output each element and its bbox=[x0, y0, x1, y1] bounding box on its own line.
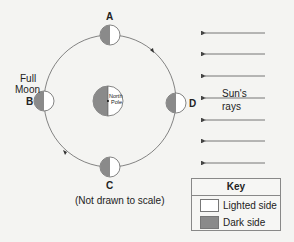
sun-rays-label-line1: Sun's bbox=[222, 88, 247, 99]
sun-rays-label-line2: rays bbox=[222, 101, 241, 112]
label-a: A bbox=[106, 11, 113, 22]
scale-note: (Not drawn to scale) bbox=[75, 195, 164, 206]
moon-d bbox=[166, 93, 186, 113]
full-moon-label-line1: Full bbox=[20, 73, 36, 84]
key-item-dark: Dark side bbox=[200, 214, 280, 230]
moon-a bbox=[100, 25, 120, 45]
moon-c bbox=[100, 157, 120, 177]
label-b: B bbox=[26, 96, 33, 107]
dark-swatch bbox=[200, 216, 219, 229]
key-item-lighted: Lighted side bbox=[200, 197, 280, 213]
label-c: C bbox=[106, 180, 113, 191]
full-moon-label-line2: Moon bbox=[15, 84, 40, 95]
lighted-swatch bbox=[200, 199, 219, 212]
earth-label-line2: Pole bbox=[111, 99, 122, 105]
key-item-label: Dark side bbox=[223, 217, 265, 228]
key-title: Key bbox=[192, 179, 280, 196]
key-item-label: Lighted side bbox=[223, 200, 277, 211]
key-legend: Key Lighted side Dark side bbox=[191, 178, 281, 231]
label-d: D bbox=[189, 98, 196, 109]
